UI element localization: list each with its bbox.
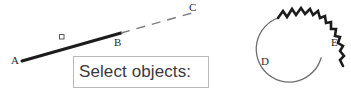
vertex-label-a: A	[11, 54, 19, 66]
select-objects-prompt[interactable]: Select objects:	[73, 56, 209, 88]
segment-bc[interactable]	[121, 13, 192, 33]
circle-figure-de: D E	[256, 8, 344, 82]
vertex-label-d: D	[261, 55, 269, 67]
grip-square[interactable]	[60, 35, 65, 40]
arc-ed-smooth[interactable]	[256, 18, 321, 82]
select-objects-prompt-label: Select objects:	[79, 63, 191, 81]
vertex-label-e: E	[331, 36, 338, 48]
vertex-label-b: B	[114, 36, 121, 48]
vertex-label-c: C	[189, 1, 196, 13]
drawing-canvas: A B C D E Select objects:	[0, 0, 351, 94]
